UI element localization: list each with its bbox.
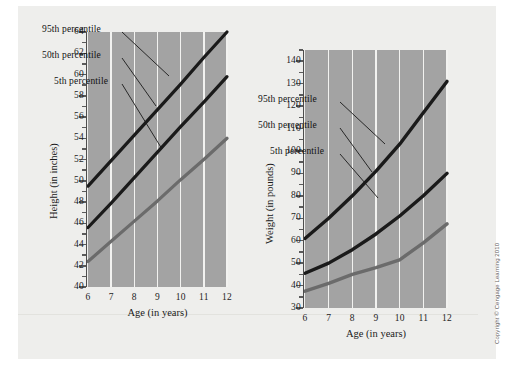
leader-line-layer: [248, 32, 473, 344]
series-leader-line: [122, 32, 169, 76]
copyright-notice: Copyright © Cengage Learning 2010: [494, 243, 500, 344]
series-leader-line: [122, 84, 162, 149]
chart-weight: 304050607080901001101201301406789101112A…: [248, 32, 473, 344]
series-leader-line: [122, 58, 156, 106]
series-leader-line: [340, 154, 378, 198]
series-leader-line: [340, 128, 372, 172]
leader-line-layer: [34, 14, 256, 344]
figure-root: 404244464850525456586062646789101112Age …: [0, 0, 514, 365]
chart-height: 404244464850525456586062646789101112Age …: [34, 14, 256, 344]
